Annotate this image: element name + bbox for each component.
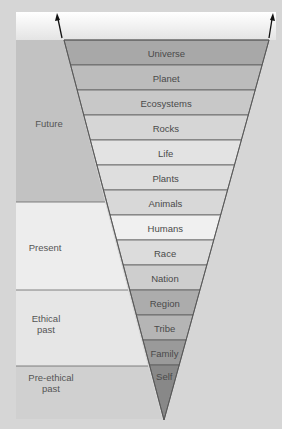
- band-label-family: Family: [150, 347, 178, 358]
- era-label-present: Present: [29, 242, 62, 253]
- era-label-ethical-past-line2: past: [32, 324, 61, 335]
- band-label-universe: Universe: [148, 47, 186, 58]
- era-label-future: Future: [35, 118, 62, 129]
- era-label-ethical-past: Ethical past: [32, 313, 61, 335]
- band-label-animals: Animals: [149, 197, 183, 208]
- band-label-region: Region: [150, 297, 180, 308]
- band-label-planet: Planet: [153, 72, 180, 83]
- band-label-race: Race: [154, 247, 176, 258]
- band-label-ecosystems: Ecosystems: [140, 97, 191, 108]
- era-label-ethical-past-line1: Ethical: [32, 313, 61, 324]
- era-label-pre-ethical-past-line1: Pre-ethical: [28, 372, 73, 383]
- band-label-rocks: Rocks: [153, 122, 179, 133]
- band-label-life: Life: [158, 147, 173, 158]
- band-label-nation: Nation: [151, 272, 178, 283]
- diagram-graphic: [0, 0, 282, 429]
- band-label-tribe: Tribe: [154, 322, 175, 333]
- ethics-expansion-diagram: UniversePlanetEcosystemsRocksLifePlantsA…: [0, 0, 282, 429]
- era-label-pre-ethical-past-line2: past: [28, 383, 73, 394]
- top-strip: [16, 12, 276, 40]
- band-label-plants: Plants: [152, 172, 178, 183]
- band-label-humans: Humans: [148, 222, 183, 233]
- era-label-pre-ethical-past: Pre-ethical past: [28, 372, 73, 394]
- band-label-self: Self: [156, 371, 172, 382]
